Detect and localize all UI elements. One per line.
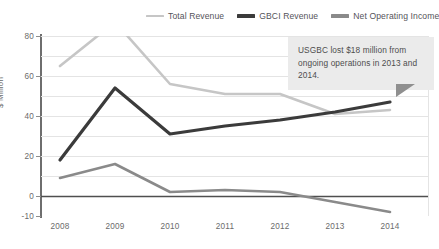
x-axis-labels: 2008200920102011201220132014 [0, 222, 434, 238]
legend-swatch-icon [237, 14, 255, 17]
x-axis-tick-label: 2011 [216, 222, 234, 231]
legend-swatch-icon [146, 15, 164, 17]
series-line-gbci-revenue [60, 88, 390, 160]
y-axis-tick-label: 20 [24, 152, 34, 161]
x-axis-tick-label: 2008 [50, 222, 69, 231]
legend-item-gbci-revenue[interactable]: GBCI Revenue [237, 11, 318, 21]
legend-label-net-operating-income: Net Operating Income [353, 11, 439, 21]
y-axis-tick-label: 0 [29, 192, 34, 201]
x-axis-tick-label: 2013 [325, 222, 344, 231]
y-axis-tick-label: 80 [24, 32, 34, 41]
legend-item-total-revenue[interactable]: Total Revenue [146, 11, 224, 21]
y-axis-tick [36, 216, 41, 217]
x-axis-tick-label: 2014 [380, 222, 399, 231]
y-axis-tick [36, 116, 41, 117]
y-axis-tick-label: 60 [24, 72, 34, 81]
chart-legend: Total Revenue GBCI Revenue Net Operating… [146, 11, 439, 21]
series-line-net-operating-income [60, 164, 390, 212]
y-axis-tick [36, 156, 41, 157]
x-axis-tick-label: 2010 [160, 222, 179, 231]
y-axis-title: $ Million [0, 77, 5, 108]
y-axis-labels: 806040200-10 [0, 0, 38, 249]
legend-swatch-icon [331, 14, 349, 17]
y-axis-tick-label: 40 [24, 112, 34, 121]
x-axis-tick-label: 2012 [270, 222, 289, 231]
legend-label-total-revenue: Total Revenue [168, 11, 224, 21]
y-axis-tick-label: -10 [22, 212, 34, 221]
y-axis-tick [36, 76, 41, 77]
callout-pointer-icon [396, 84, 415, 97]
y-axis-tick [36, 196, 41, 197]
legend-label-gbci-revenue: GBCI Revenue [259, 11, 318, 21]
legend-item-net-operating-income[interactable]: Net Operating Income [331, 11, 439, 21]
y-axis-tick [36, 36, 41, 37]
x-axis-tick-label: 2009 [105, 222, 124, 231]
callout-box: USGBC lost $18 million from ongoing oper… [288, 37, 434, 90]
